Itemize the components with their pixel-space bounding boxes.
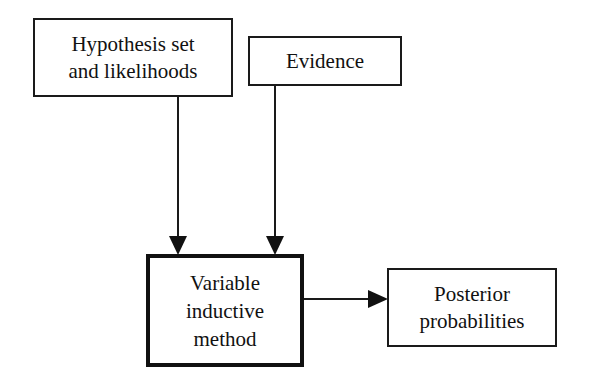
node-label-line: Hypothesis set <box>69 31 198 58</box>
node-label-line: inductive <box>186 297 264 325</box>
node-label-line: method <box>186 325 264 353</box>
node-label-line: Posterior <box>420 281 525 308</box>
arrowhead-down-icon <box>266 236 284 255</box>
node-label-line: Evidence <box>286 48 364 75</box>
node-label-line: and likelihoods <box>69 58 198 85</box>
arrowhead-down-icon <box>169 236 187 255</box>
node-variable-inductive-method: Variable inductive method <box>146 254 304 367</box>
node-label-line: probabilities <box>420 308 525 335</box>
arrowhead-right-icon <box>368 290 388 308</box>
node-posterior-probabilities: Posterior probabilities <box>387 268 557 347</box>
node-label-line: Variable <box>186 269 264 297</box>
node-evidence: Evidence <box>248 36 402 86</box>
node-hypothesis-set: Hypothesis set and likelihoods <box>33 18 233 97</box>
